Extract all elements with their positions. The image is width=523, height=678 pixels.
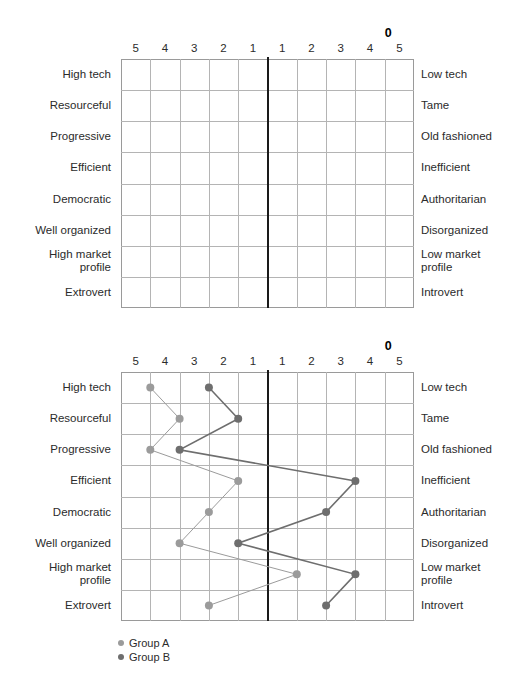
series-data-point: [205, 508, 213, 516]
series-data-point: [234, 415, 242, 423]
row-label-left: Efficient: [0, 161, 111, 174]
series-data-point: [351, 477, 359, 485]
series-data-point: [322, 508, 330, 516]
legend-marker-icon: [118, 640, 124, 646]
row-label-right: Low tech: [421, 381, 521, 394]
axis-tick-label: 1: [238, 350, 267, 372]
row-label-right: Old fashioned: [421, 443, 521, 456]
axis-tick-label: 4: [355, 350, 384, 372]
series-data-point: [322, 601, 330, 609]
axis-tick-label: 1: [268, 37, 297, 59]
series-group-a: [146, 384, 300, 610]
row-label-right: Low tech: [421, 68, 521, 81]
series-data-point: [176, 446, 184, 454]
series-line: [180, 388, 356, 606]
row-label-left: High marketprofile: [0, 561, 111, 587]
row-label-left: Resourceful: [0, 99, 111, 112]
row-label-left: High tech: [0, 381, 111, 394]
legend-marker-icon: [118, 654, 124, 660]
axis-tick-label: 2: [209, 37, 238, 59]
series-data-point: [234, 477, 242, 485]
row-label-right: Tame: [421, 99, 521, 112]
row-label-right: Low marketprofile: [421, 561, 521, 587]
axis-tick-label: 3: [326, 350, 355, 372]
axis-tick-label: 5: [385, 37, 414, 59]
series-data-point: [176, 539, 184, 547]
axis-tick-label: 2: [209, 350, 238, 372]
row-label-right: Disorganized: [421, 537, 521, 550]
series-data-point: [205, 384, 213, 392]
series-line: [150, 388, 296, 606]
legend-label: Group B: [129, 650, 170, 664]
row-label-right: Old fashioned: [421, 130, 521, 143]
axis-tick-label: 1: [268, 350, 297, 372]
row-label-right: Authoritarian: [421, 193, 521, 206]
series-data-point: [205, 601, 213, 609]
legend-item[interactable]: Group A: [118, 636, 170, 650]
axis-tick-label: 5: [121, 37, 150, 59]
row-label-left: Progressive: [0, 130, 111, 143]
row-label-left: Resourceful: [0, 412, 111, 425]
row-label-right: Disorganized: [421, 224, 521, 237]
row-label-right: Inefficient: [421, 474, 521, 487]
axis-tick-label: 4: [355, 37, 384, 59]
row-label-left: Well organized: [0, 537, 111, 550]
axis-tick-label: 4: [150, 37, 179, 59]
axis-tick-label: 1: [238, 37, 267, 59]
row-label-left: Efficient: [0, 474, 111, 487]
series-layer: [121, 372, 414, 621]
axis-tick-label: 5: [121, 350, 150, 372]
series-data-point: [234, 539, 242, 547]
axis-tick-label: 2: [297, 350, 326, 372]
row-label-left: Well organized: [0, 224, 111, 237]
zero-axis-line: [267, 57, 269, 308]
row-label-right: Tame: [421, 412, 521, 425]
axis-zero-label: 0: [374, 339, 403, 353]
series-data-point: [293, 570, 301, 578]
series-data-point: [176, 415, 184, 423]
series-group-b: [176, 384, 360, 610]
row-label-right: Introvert: [421, 286, 521, 299]
axis-zero-label: 0: [374, 26, 403, 40]
axis-tick-label: 3: [180, 350, 209, 372]
legend-label: Group A: [129, 636, 169, 650]
axis-scale-row: 54321123450: [121, 37, 414, 59]
row-label-left: Democratic: [0, 506, 111, 519]
legend-item[interactable]: Group B: [118, 650, 170, 664]
axis-tick-label: 3: [180, 37, 209, 59]
row-label-right: Inefficient: [421, 161, 521, 174]
axis-scale-row: 54321123450: [121, 350, 414, 372]
row-label-left: High marketprofile: [0, 248, 111, 274]
axis-tick-label: 5: [385, 350, 414, 372]
row-label-left: Progressive: [0, 443, 111, 456]
series-data-point: [146, 446, 154, 454]
series-data-point: [351, 570, 359, 578]
axis-tick-label: 4: [150, 350, 179, 372]
row-label-left: Extrovert: [0, 599, 111, 612]
chart-legend: Group AGroup B: [118, 636, 170, 664]
chart-grid: [121, 59, 414, 308]
row-label-right: Low marketprofile: [421, 248, 521, 274]
axis-tick-label: 2: [297, 37, 326, 59]
row-label-right: Introvert: [421, 599, 521, 612]
axis-tick-label: 3: [326, 37, 355, 59]
row-label-left: High tech: [0, 68, 111, 81]
series-data-point: [146, 384, 154, 392]
row-label-right: Authoritarian: [421, 506, 521, 519]
row-label-left: Extrovert: [0, 286, 111, 299]
row-label-left: Democratic: [0, 193, 111, 206]
